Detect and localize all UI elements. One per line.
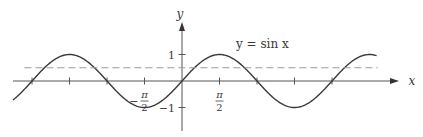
y-axis-arrow-icon: [179, 22, 185, 31]
x-tick-label-denominator: 2: [216, 102, 222, 113]
y-tick-label-1: 1: [168, 49, 175, 62]
labels-layer: y x y = sin x 1 −1 −π2π2: [129, 7, 415, 115]
x-tick-label-numerator: π: [215, 89, 223, 100]
axes: [13, 22, 399, 131]
x-tick-label: −π2: [129, 89, 148, 113]
x-tick-label-numerator: π: [140, 89, 148, 100]
x-axis-label: x: [409, 74, 416, 88]
sine-graph: y x y = sin x 1 −1 −π2π2: [0, 0, 423, 137]
x-tick-label-sign: −: [129, 95, 138, 108]
y-axis-label: y: [176, 7, 184, 21]
y-tick-label-neg1: −1: [159, 102, 175, 115]
x-tick-label-denominator: 2: [141, 102, 147, 113]
x-axis-arrow-icon: [390, 78, 399, 84]
function-label: y = sin x: [235, 37, 289, 51]
x-tick-label: π2: [215, 89, 223, 113]
